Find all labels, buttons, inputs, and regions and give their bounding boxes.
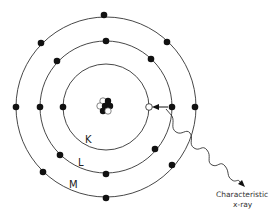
k-vacancy	[146, 104, 153, 111]
xray-wave	[166, 109, 240, 182]
caption-line2: x-ray	[233, 200, 253, 209]
l-shell-label: L	[78, 157, 84, 168]
caption-line1: Characteristic	[216, 190, 268, 199]
k-shell-label: K	[85, 134, 92, 145]
m-shell-label: M	[69, 179, 78, 190]
nucleus	[97, 98, 113, 114]
transition-arrow	[152, 104, 168, 110]
atom-diagram: K L M Characteristic x-ray	[0, 0, 278, 220]
